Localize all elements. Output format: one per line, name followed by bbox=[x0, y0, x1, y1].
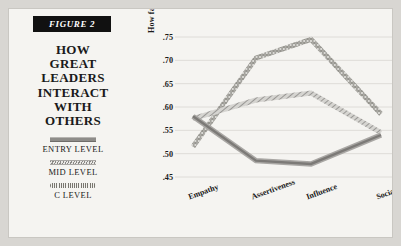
legend-swatch-c-level bbox=[50, 183, 96, 188]
y-axis-tick: .70 bbox=[163, 56, 173, 65]
legend-swatch-mid-level bbox=[50, 160, 96, 165]
series-entry-level bbox=[193, 116, 381, 164]
y-axis-ticks: .75.70.65.60.55.50.45 bbox=[151, 9, 173, 238]
series-mid-level bbox=[193, 93, 381, 133]
left-panel: FIGURE 2 HOW GREAT LEADERS INTERACT WITH… bbox=[9, 9, 137, 238]
y-axis-tick: .75 bbox=[163, 33, 173, 42]
legend-label-entry-level: ENTRY LEVEL bbox=[15, 144, 131, 154]
legend-item-mid-level: MID LEVEL bbox=[15, 160, 131, 177]
title-line: OTHERS bbox=[15, 114, 131, 128]
figure-number-badge: FIGURE 2 bbox=[33, 16, 111, 32]
y-axis-tick: .45 bbox=[163, 173, 173, 182]
title-line: HOW bbox=[15, 43, 131, 57]
page-title: HOW GREAT LEADERS INTERACT WITH OTHERS bbox=[15, 43, 131, 128]
title-line: INTERACT bbox=[15, 86, 131, 100]
figure-card: FIGURE 2 HOW GREAT LEADERS INTERACT WITH… bbox=[8, 8, 393, 238]
chart-area: How far above/below the norm (.05) .75.7… bbox=[137, 9, 393, 238]
y-axis-tick: .60 bbox=[163, 103, 173, 112]
legend-item-c-level: C LEVEL bbox=[15, 183, 131, 200]
legend-swatch-entry-level bbox=[50, 137, 96, 142]
chart-legend: ENTRY LEVEL MID LEVEL C LEVEL bbox=[15, 137, 131, 206]
y-axis-tick: .65 bbox=[163, 79, 173, 88]
plot-region: EmpathyAssertivenessInfluenceSociability bbox=[175, 9, 393, 238]
title-line: LEADERS bbox=[15, 71, 131, 85]
y-axis-tick: .55 bbox=[163, 126, 173, 135]
legend-item-entry-level: ENTRY LEVEL bbox=[15, 137, 131, 154]
legend-label-mid-level: MID LEVEL bbox=[15, 167, 131, 177]
chart-plot-svg bbox=[175, 9, 393, 238]
y-axis-tick: .50 bbox=[163, 149, 173, 158]
legend-label-c-level: C LEVEL bbox=[15, 190, 131, 200]
title-line: GREAT bbox=[15, 57, 131, 71]
title-line: WITH bbox=[15, 100, 131, 114]
